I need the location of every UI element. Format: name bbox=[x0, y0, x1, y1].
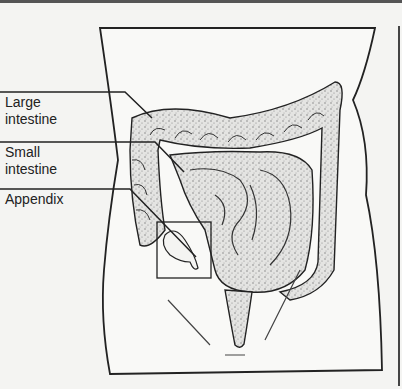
label-text: intestine bbox=[5, 111, 57, 128]
label-small-intestine: Small intestine bbox=[5, 144, 57, 178]
label-text: intestine bbox=[5, 161, 57, 178]
label-text: Small bbox=[5, 144, 57, 161]
label-text: Large bbox=[5, 94, 57, 111]
label-large-intestine: Large intestine bbox=[5, 94, 57, 128]
label-text: Appendix bbox=[5, 191, 63, 208]
label-appendix: Appendix bbox=[5, 191, 63, 208]
